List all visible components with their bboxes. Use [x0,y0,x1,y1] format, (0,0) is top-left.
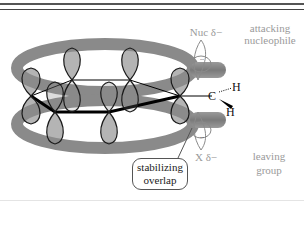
nucleophile-role-line1: attacking [237,22,303,34]
carbon-atom: C [208,90,216,102]
hydrogen-bottom: H [226,106,235,118]
hydrogen-top: H [232,81,241,93]
leaving-lone-pair: .. [196,130,208,142]
nucleophile-lone-pair: .. [196,52,208,64]
bottom-rule [0,200,304,201]
leaving-role-line1: leaving [244,150,294,162]
leaving-role-line2: group [244,164,294,176]
nucleophile-role-line2: nucleophile [237,34,303,46]
leaving-group-charge-label: X δ− [188,151,224,163]
p-orbitals [22,48,189,144]
stabilizing-overlap-callout: stabilizing overlap [132,158,188,190]
callout-line2: overlap [133,174,187,187]
nucleophile-charge-label: Nuc δ− [188,26,224,38]
callout-line1: stabilizing [133,161,187,174]
